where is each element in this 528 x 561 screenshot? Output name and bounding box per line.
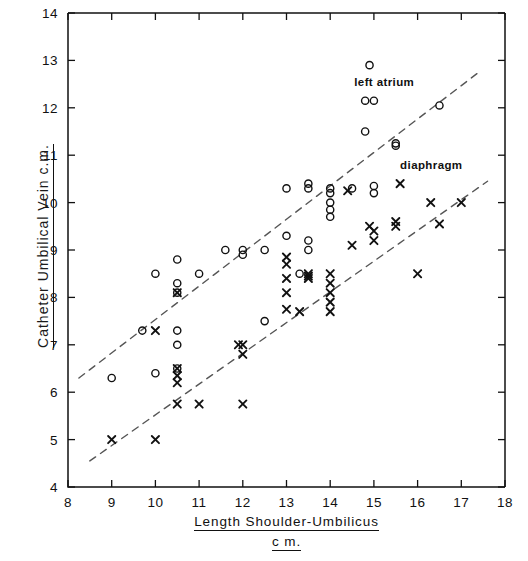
data-point-cross [283,254,290,261]
data-point-cross [327,299,334,306]
x-tick-label: 16 [410,495,426,510]
data-point-cross [152,436,159,443]
data-point-cross [239,351,246,358]
data-point-cross [392,223,399,230]
data-point-circle [327,206,334,213]
data-point-cross [174,289,181,296]
data-point-circle [261,318,268,325]
x-axis-title-line2: c m. [68,534,505,551]
data-point-circle [305,246,312,253]
data-point-circle [370,97,377,104]
x-tick-label: 8 [64,495,72,510]
x-tick-label: 18 [497,495,513,510]
data-point-cross [283,261,290,268]
data-point-cross [108,436,115,443]
data-point-cross [152,327,159,334]
data-point-cross [327,270,334,277]
data-point-circle [362,128,369,135]
data-point-cross [283,306,290,313]
x-axis-title-line1: Length Shoulder-Umbilicus [194,514,379,531]
data-point-circle [108,374,115,381]
data-point-cross [327,289,334,296]
y-tick-label: 4 [50,480,58,495]
annotation-left-atrium: left atrium [354,76,414,88]
trendline-diaphragm [90,181,488,461]
data-point-circle [283,232,290,239]
data-point-circle [370,190,377,197]
data-point-circle [261,246,268,253]
annotation-diaphragm: diaphragm [400,159,462,171]
data-point-circle [327,213,334,220]
data-point-circle [327,199,334,206]
data-point-cross [174,379,181,386]
data-point-circle [436,102,443,109]
data-point-cross [174,372,181,379]
data-point-circle [152,370,159,377]
data-point-cross [196,400,203,407]
x-tick-label: 12 [235,495,251,510]
data-point-circle [239,251,246,258]
y-axis-title: Catheter Umbilical Vein c.m. [34,106,54,386]
y-tick-label: 14 [42,6,58,21]
data-point-circle [174,341,181,348]
data-point-cross [414,270,421,277]
data-point-circle [196,270,203,277]
data-point-circle [305,185,312,192]
data-point-circle [366,62,373,69]
data-point-cross [348,242,355,249]
data-point-circle [370,182,377,189]
x-tick-label: 17 [453,495,469,510]
y-tick-label: 13 [42,53,58,68]
data-point-circle [174,256,181,263]
data-point-cross [283,289,290,296]
data-point-circle [174,327,181,334]
tick-labels: 891011121314151617184567891011121314 [42,6,513,510]
data-point-circle [362,97,369,104]
data-point-circle [222,246,229,253]
data-point-cross [327,308,334,315]
x-axis-title-line2-text: c m. [272,534,301,551]
x-tick-label: 11 [192,495,207,510]
data-point-circle [152,270,159,277]
data-point-circle [296,270,303,277]
data-point-cross [239,341,246,348]
x-tick-label: 10 [147,495,163,510]
data-point-cross [458,199,465,206]
data-point-cross [174,400,181,407]
data-point-cross [397,180,404,187]
y-tick-label: 5 [50,433,58,448]
data-point-cross [436,220,443,227]
axes [68,13,505,487]
data-point-cross [239,400,246,407]
data-point-cross [370,227,377,234]
x-tick-label: 15 [366,495,382,510]
y-axis-title-text: Catheter Umbilical Vein c.m. [35,144,54,348]
data-point-cross [427,199,434,206]
x-axis-title: Length Shoulder-Umbilicus c m. [68,512,505,551]
x-tick-label: 14 [322,495,338,510]
data-point-cross [283,275,290,282]
x-tick-label: 9 [108,495,116,510]
scatter-plot-canvas: 891011121314151617184567891011121314 [0,0,528,561]
data-point-circle [174,280,181,287]
data-point-circle [139,327,146,334]
data-point-circle [283,185,290,192]
data-point-cross [327,280,334,287]
data-point-circle [305,237,312,244]
x-tick-label: 13 [278,495,294,510]
data-point-cross [174,365,181,372]
data-markers [108,62,465,444]
chart-figure: 891011121314151617184567891011121314 Len… [0,0,528,561]
data-point-cross [370,237,377,244]
y-tick-label: 6 [50,385,58,400]
data-point-circle [327,190,334,197]
